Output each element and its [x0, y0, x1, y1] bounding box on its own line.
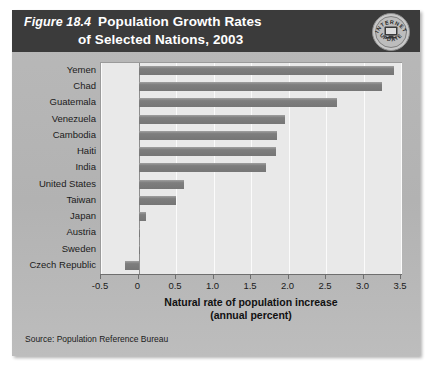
category-label: Taiwan — [66, 192, 96, 208]
x-axis-tick-label: 2.0 — [281, 280, 294, 291]
x-axis-line — [100, 274, 402, 275]
category-label: United States — [39, 176, 96, 192]
x-axis-tick — [250, 274, 251, 279]
x-axis-tick-label: 3.5 — [393, 280, 406, 291]
figure-title-line-1: Figure 18.4Population Growth Rates — [24, 13, 354, 31]
bar-united-states — [139, 180, 184, 189]
plot-area — [100, 62, 402, 275]
x-axis-tick-label: 0.5 — [168, 280, 181, 291]
x-axis-tick-label: 0 — [135, 280, 140, 291]
bar-venezuela — [139, 115, 285, 124]
category-label: Chad — [73, 78, 96, 94]
bar-row — [101, 258, 401, 274]
y-axis-category-labels: YemenChadGuatemalaVenezuelaCambodiaHaiti… — [12, 62, 96, 273]
bar-cambodia — [139, 131, 278, 140]
bar-japan — [139, 212, 147, 221]
internet-update-seal-graphic: INTERNET UPDATE — [371, 12, 411, 52]
figure-title-block: Figure 18.4Population Growth Rates of Se… — [24, 13, 354, 48]
bar-sweden — [139, 245, 141, 254]
bar-guatemala — [139, 98, 338, 107]
bar-row — [101, 160, 401, 176]
x-axis-tick-label: 1.5 — [243, 280, 256, 291]
x-axis-title: Natural rate of population increase (ann… — [100, 296, 402, 322]
x-axis-tick — [175, 274, 176, 279]
bar-row — [101, 209, 401, 225]
figure-title-text-1: Population Growth Rates — [98, 14, 262, 29]
x-axis-tick — [400, 274, 401, 279]
bar-yemen — [139, 66, 394, 75]
x-axis-tick — [213, 274, 214, 279]
bar-row — [101, 63, 401, 79]
bar-taiwan — [139, 196, 177, 205]
x-axis-tick-label: 3.0 — [356, 280, 369, 291]
category-label: Guatemala — [50, 94, 96, 110]
x-axis-tick — [325, 274, 326, 279]
x-axis-tick-label: 2.5 — [318, 280, 331, 291]
category-label: Venezuela — [52, 111, 96, 127]
x-axis-tick-label: -0.5 — [92, 280, 108, 291]
source-note: Source: Population Reference Bureau — [25, 334, 168, 344]
x-axis-tick — [363, 274, 364, 279]
bar-row — [101, 225, 401, 241]
internet-update-seal: INTERNET UPDATE — [371, 12, 411, 52]
bar-row — [101, 79, 401, 95]
bar-row — [101, 128, 401, 144]
bar-row — [101, 112, 401, 128]
figure-header-bar: Figure 18.4Population Growth Rates of Se… — [12, 10, 420, 52]
x-axis-title-line-1: Natural rate of population increase — [100, 296, 402, 309]
x-axis-tick-label: 1.0 — [206, 280, 219, 291]
category-label: Japan — [70, 208, 96, 224]
x-axis-tick — [138, 274, 139, 279]
bar-haiti — [139, 147, 276, 156]
bar-row — [101, 193, 401, 209]
bar-czech-republic — [125, 261, 139, 270]
bar-row — [101, 144, 401, 160]
chart-area: YemenChadGuatemalaVenezuelaCambodiaHaiti… — [12, 52, 420, 356]
x-axis-tick — [100, 274, 101, 279]
x-axis-title-line-2: (annual percent) — [100, 309, 402, 322]
category-label: India — [75, 159, 96, 175]
figure-number: Figure 18.4 — [24, 15, 91, 29]
bar-india — [139, 163, 267, 172]
bar-row — [101, 95, 401, 111]
category-label: Austria — [66, 224, 96, 240]
category-label: Sweden — [62, 241, 96, 257]
category-label: Czech Republic — [29, 257, 96, 273]
bar-chad — [139, 82, 383, 91]
bar-row — [101, 177, 401, 193]
figure-panel: Figure 18.4Population Growth Rates of Se… — [12, 10, 420, 356]
category-label: Yemen — [67, 62, 96, 78]
figure-title-line-2: of Selected Nations, 2003 — [24, 31, 354, 48]
gridline — [401, 63, 402, 274]
x-axis-tick — [288, 274, 289, 279]
category-label: Haiti — [77, 143, 96, 159]
category-label: Cambodia — [53, 127, 96, 143]
bar-row — [101, 242, 401, 258]
bar-austria — [139, 228, 141, 237]
